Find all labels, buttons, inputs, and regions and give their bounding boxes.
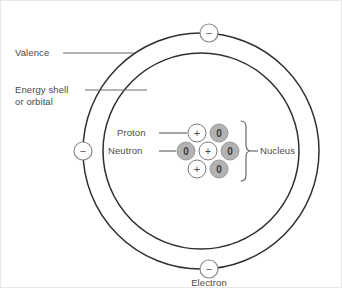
nucleus-brace — [241, 121, 251, 181]
electron-label: Electron — [191, 277, 227, 288]
proton-bottom-glyph: + — [194, 163, 200, 175]
nucleus-label: Nucleus — [260, 145, 295, 157]
neutron-bottom-glyph: 0 — [216, 164, 222, 175]
valence-label: Valence — [15, 47, 49, 59]
neutron-top-right-glyph: 0 — [216, 128, 222, 139]
proton-label: Proton — [117, 127, 146, 139]
electron-bottom-glyph: − — [206, 263, 212, 275]
electron-left-glyph: − — [80, 145, 86, 157]
proton-top-glyph: + — [194, 127, 200, 139]
neutron-left-glyph: 0 — [183, 146, 189, 157]
diagram-canvas: + 0 0 + 0 + 0 − − − Valence Energy shell… — [0, 0, 342, 288]
neutron-label: Neutron — [108, 145, 143, 157]
electron-top-glyph: − — [206, 27, 212, 39]
energy-shell-label-line2: or orbital — [15, 96, 53, 108]
neutron-right-glyph: 0 — [227, 146, 233, 157]
energy-shell-label-line1: Energy shell — [15, 84, 68, 96]
proton-center-glyph: + — [205, 145, 211, 157]
